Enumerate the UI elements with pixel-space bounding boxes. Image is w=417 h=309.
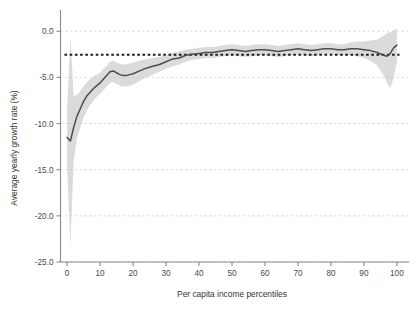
y-tick-label-4: -20.0 (35, 212, 54, 221)
x-tick-label-5: 50 (227, 269, 237, 278)
x-tick-label-8: 80 (326, 269, 336, 278)
y-tick-label-3: -15.0 (35, 166, 54, 175)
x-tick-label-1: 10 (96, 269, 106, 278)
x-tick-label-4: 40 (194, 269, 204, 278)
y-axis-title: Average yearly growth rate (%) (9, 90, 19, 205)
x-tick-label-10: 100 (390, 269, 404, 278)
x-tick-label-9: 90 (359, 269, 369, 278)
x-tick-label-6: 60 (260, 269, 270, 278)
y-tick-label-1: -5.0 (39, 73, 54, 82)
x-tick-label-2: 20 (129, 269, 139, 278)
y-tick-label-2: -10.0 (35, 120, 54, 129)
y-tick-label-5: -25.0 (35, 258, 54, 267)
y-tick-label-0: 0.0 (42, 27, 54, 36)
x-axis-title: Per capita income percentiles (177, 289, 287, 299)
x-tick-label-3: 30 (161, 269, 171, 278)
figure-container: 0.0-5.0-10.0-15.0-20.0-25.0 010203040506… (0, 0, 417, 309)
x-tick-label-7: 70 (293, 269, 303, 278)
x-tick-label-0: 0 (65, 269, 70, 278)
growth-rate-chart: 0.0-5.0-10.0-15.0-20.0-25.0 010203040506… (0, 0, 417, 309)
